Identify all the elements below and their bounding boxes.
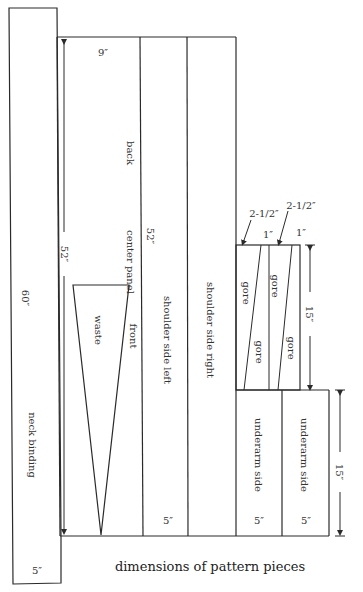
back-label: back xyxy=(125,141,136,166)
waste-piece: waste xyxy=(73,285,129,535)
gore-wide-label-2: 2-1/2″ xyxy=(286,200,316,211)
main-length-label: 52″ xyxy=(59,246,70,263)
gore-label-3: gore xyxy=(254,340,265,363)
front-label: front xyxy=(128,324,139,349)
neck-binding-label: neck binding xyxy=(27,412,38,478)
gore-length-label: 15″ xyxy=(304,306,315,323)
gores-group: gore gore gore gore 1″ 1″ 2-1/2″ 2-1/2″ … xyxy=(236,200,316,390)
neck-binding-piece: 60″ neck binding 5″ xyxy=(9,8,61,584)
center-panel-width-label: 9″ xyxy=(98,47,108,58)
gore-narrow-label-2: 1″ xyxy=(296,227,306,238)
center-panel-piece: 9″ back center panel 52″ front xyxy=(98,37,156,536)
gore-wide-label-1: 2-1/2″ xyxy=(249,208,279,219)
neck-binding-length-label: 60″ xyxy=(20,290,31,307)
underarm-length-label: 15″ xyxy=(334,464,345,481)
underarm-side-right-label: underarm side xyxy=(299,418,310,492)
shoulder-side-left-piece: shoulder side left 5″ xyxy=(162,37,188,536)
gore-label-4: gore xyxy=(286,336,297,359)
underarm-sides-group: underarm side 5″ underarm side 5″ 15″ xyxy=(236,390,345,536)
waste-label: waste xyxy=(93,315,104,345)
underarm-side-left-width-label: 5″ xyxy=(254,515,264,526)
center-panel-length-label: 52″ xyxy=(145,228,156,245)
shoulder-side-left-label: shoulder side left xyxy=(162,296,173,384)
center-panel-label: center panel xyxy=(125,230,136,294)
shoulder-side-left-width-label: 5″ xyxy=(163,515,173,526)
gore-narrow-label-1: 1″ xyxy=(263,229,273,240)
diagram-caption: dimensions of pattern pieces xyxy=(115,559,305,574)
gore-label-1: gore xyxy=(241,281,252,304)
shoulder-side-right-label: shoulder side right xyxy=(205,282,216,378)
shoulder-side-right-piece: shoulder side right xyxy=(205,282,216,378)
pattern-diagram: 60″ neck binding 5″ 52″ 9″ back center p… xyxy=(0,0,363,592)
neck-binding-width-label: 5″ xyxy=(32,565,42,576)
gore-label-2: gore xyxy=(270,274,281,297)
underarm-side-right-width-label: 5″ xyxy=(301,515,311,526)
underarm-side-left-label: underarm side xyxy=(253,418,264,492)
